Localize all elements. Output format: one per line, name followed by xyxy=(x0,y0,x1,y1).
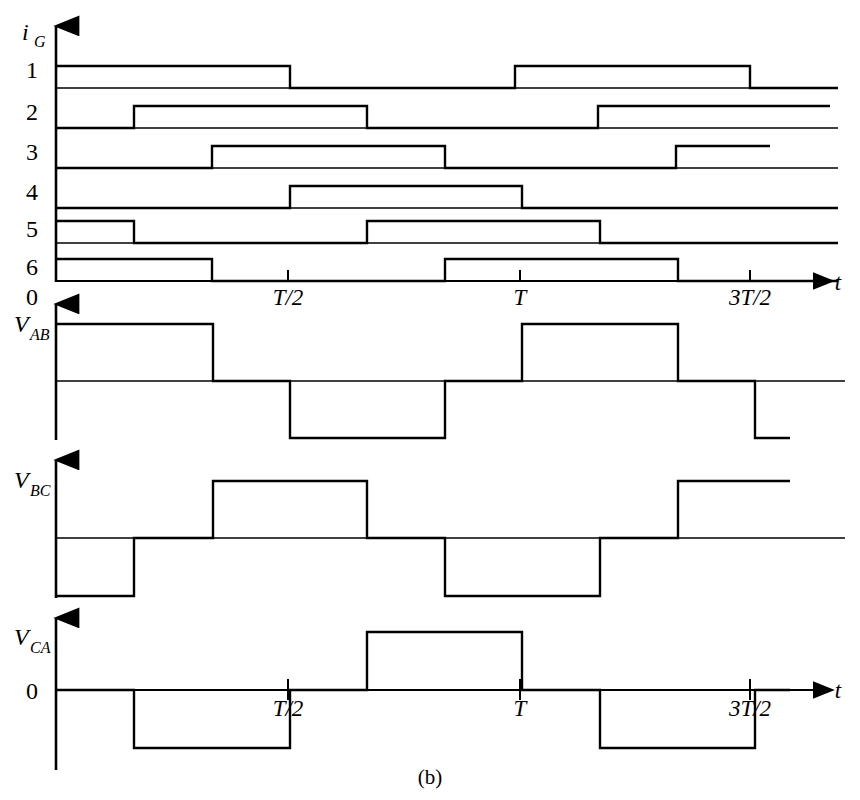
gate-axis-label: i xyxy=(22,19,29,45)
waveform-svg: 1 2 3 4 5 6 0 i G T/2 T 3T/2 t V AB V BC xyxy=(0,0,860,800)
vca-axis-label-sub: CA xyxy=(30,639,51,656)
gate-origin-label: 0 xyxy=(26,284,38,310)
gate-waveform-2 xyxy=(56,106,830,128)
vbc-axis-label-sub: BC xyxy=(30,482,51,499)
gate-row-label-1: 1 xyxy=(26,57,38,83)
vab-axis-label: V xyxy=(14,311,31,337)
gate-axis-label-sub: G xyxy=(34,33,46,50)
gate-waveform-5 xyxy=(56,221,838,243)
gate-row-label-3: 3 xyxy=(26,139,38,165)
gate-tick-label-t: T xyxy=(514,285,529,310)
gate-tick-label-t-half: T/2 xyxy=(273,285,304,310)
vca-tick-label-t: T xyxy=(514,696,529,721)
gate-time-axis-label: t xyxy=(835,270,842,295)
vca-tick-label-3t-half: 3T/2 xyxy=(728,696,771,721)
gate-waveform-4 xyxy=(56,186,838,208)
vbc-axis-label: V xyxy=(14,467,31,493)
inverter-waveform-figure: 1 2 3 4 5 6 0 i G T/2 T 3T/2 t V AB V BC xyxy=(0,0,860,800)
gate-row-label-6: 6 xyxy=(26,254,38,280)
vca-zero-label: 0 xyxy=(26,678,38,704)
vca-time-axis-label: t xyxy=(835,678,842,703)
gate-row-label-2: 2 xyxy=(26,99,38,125)
vca-axis-label: V xyxy=(14,624,31,650)
gate-row-label-5: 5 xyxy=(26,216,38,242)
gate-waveform-1 xyxy=(56,66,838,88)
gate-row-label-4: 4 xyxy=(26,179,38,205)
vab-axis-label-sub: AB xyxy=(29,326,50,343)
vca-tick-label-t-half: T/2 xyxy=(273,696,304,721)
gate-tick-label-3t-half: 3T/2 xyxy=(728,285,771,310)
panel-label: (b) xyxy=(418,765,443,789)
gate-waveform-3 xyxy=(56,146,770,168)
gate-waveform-6 xyxy=(56,259,838,281)
